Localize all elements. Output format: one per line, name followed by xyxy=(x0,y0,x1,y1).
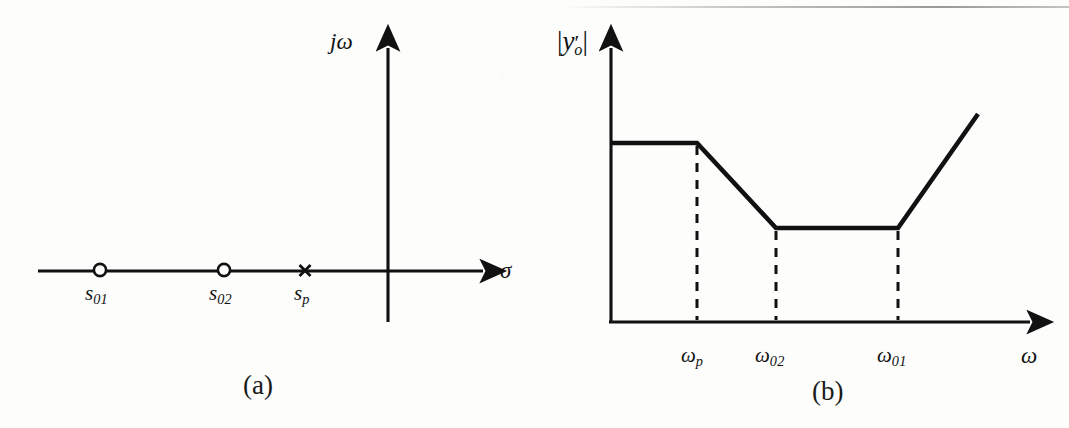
panel-b-caption: (b) xyxy=(812,378,843,405)
zero-label-s01-base: s xyxy=(85,281,93,305)
zero-label-s02-base: s xyxy=(209,281,217,305)
zero-label-s01: s01 xyxy=(85,283,108,307)
figure-svg xyxy=(0,0,1069,428)
zero-marker-s02 xyxy=(218,264,230,276)
panel-a-caption: (a) xyxy=(243,372,273,399)
tick-omega-p-sub: p xyxy=(696,353,703,369)
zero-label-s02: s02 xyxy=(209,283,232,307)
zero-label-s01-sub: 01 xyxy=(93,291,108,307)
figure-container: σ jω s01 s02 sp (a) |y′o| ω ωp ω02 ω01 (… xyxy=(0,0,1069,428)
tick-label-omega-p: ωp xyxy=(681,345,703,369)
magnitude-axis-label: |y′o| xyxy=(557,28,588,58)
jomega-axis-label: jω xyxy=(330,30,353,53)
tick-label-omega-01: ω01 xyxy=(877,345,907,369)
response-polyline xyxy=(611,114,978,228)
tick-omega-01-base: ω xyxy=(877,343,892,367)
abs-label-y: y xyxy=(562,26,574,56)
tick-omega-01-sub: 01 xyxy=(892,353,907,369)
tick-omega-02-sub: 02 xyxy=(770,353,785,369)
tick-omega-p-base: ω xyxy=(681,343,696,367)
tick-label-omega-02: ω02 xyxy=(755,345,785,369)
tick-omega-02-base: ω xyxy=(755,343,770,367)
pole-label-sp: sp xyxy=(294,283,310,307)
jomega-label-omega: ω xyxy=(336,29,352,54)
zero-label-s02-sub: 02 xyxy=(217,291,232,307)
panel-a-axes xyxy=(38,48,483,322)
zero-marker-s01 xyxy=(94,264,106,276)
abs-bar-close: | xyxy=(582,26,587,56)
pole-label-sp-sub: p xyxy=(302,291,309,307)
scan-artifact-line xyxy=(560,6,1069,8)
panel-b-axes xyxy=(609,48,1030,322)
magnitude-response-curve xyxy=(611,114,978,228)
pole-label-sp-base: s xyxy=(294,281,302,305)
omega-axis-label: ω xyxy=(1021,344,1037,367)
sigma-axis-label: σ xyxy=(500,259,511,282)
